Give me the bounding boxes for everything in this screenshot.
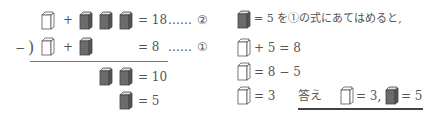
gray-box-icon bbox=[79, 10, 93, 30]
equation-2-rhs: = 18 bbox=[138, 13, 167, 27]
answer-gray-value: = 5 bbox=[401, 89, 423, 103]
step-3: = 3 bbox=[254, 89, 276, 103]
equation-1-rhs: = 8 bbox=[138, 40, 160, 54]
step-1: + 5 = 8 bbox=[254, 41, 301, 55]
answer-underline bbox=[298, 108, 423, 110]
white-box-icon bbox=[41, 36, 55, 56]
gray-box-icon bbox=[99, 66, 113, 86]
ellipsis: …… bbox=[168, 40, 192, 54]
white-box-icon bbox=[41, 10, 55, 30]
difference-rhs: = 10 bbox=[138, 70, 167, 84]
gray-box-icon bbox=[119, 66, 133, 86]
ellipsis: …… bbox=[168, 13, 192, 27]
gray-box-icon bbox=[119, 90, 133, 110]
white-box-icon bbox=[340, 85, 354, 105]
minus-sign: − bbox=[15, 41, 25, 55]
white-box-icon bbox=[237, 37, 251, 57]
white-box-icon bbox=[237, 85, 251, 105]
step-2: = 8 − 5 bbox=[254, 65, 301, 79]
plus-sign: + bbox=[63, 13, 73, 27]
answer-white-value: = 3, bbox=[356, 89, 381, 103]
subtraction-line bbox=[30, 61, 168, 62]
gray-box-icon bbox=[99, 10, 113, 30]
answer-label: 答え bbox=[298, 89, 322, 103]
single-rhs: = 5 bbox=[138, 94, 160, 108]
white-box-icon bbox=[237, 61, 251, 81]
gray-box-icon bbox=[119, 10, 133, 30]
paren: ) bbox=[28, 41, 34, 55]
equation-label-2: ② bbox=[197, 13, 208, 27]
plus-sign: + bbox=[63, 40, 73, 54]
gray-box-icon bbox=[385, 85, 399, 105]
gray-box-icon bbox=[237, 9, 251, 29]
equation-label-1: ① bbox=[197, 40, 208, 54]
gray-box-icon bbox=[79, 36, 93, 56]
substitution-text: = 5 を①の式にあてはめると, bbox=[254, 12, 402, 26]
